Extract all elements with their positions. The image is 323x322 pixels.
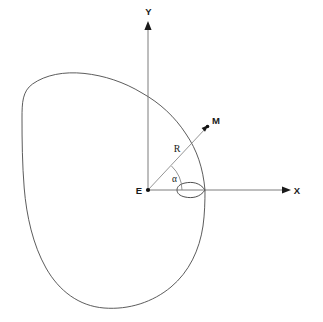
y-axis-arrowhead	[144, 21, 151, 30]
point-m-dot	[206, 125, 210, 129]
y-axis-label: Y	[145, 6, 152, 17]
limacon-outer-curve	[22, 73, 205, 308]
x-axis-label: X	[294, 185, 301, 196]
limacon-figure: X Y E M R α	[0, 0, 323, 322]
origin-label: E	[136, 185, 142, 196]
point-m-label: M	[212, 115, 220, 126]
angle-label: α	[172, 174, 177, 184]
radius-label: R	[174, 143, 181, 154]
x-axis-arrowhead	[282, 186, 291, 193]
origin-point-dot	[146, 188, 150, 192]
